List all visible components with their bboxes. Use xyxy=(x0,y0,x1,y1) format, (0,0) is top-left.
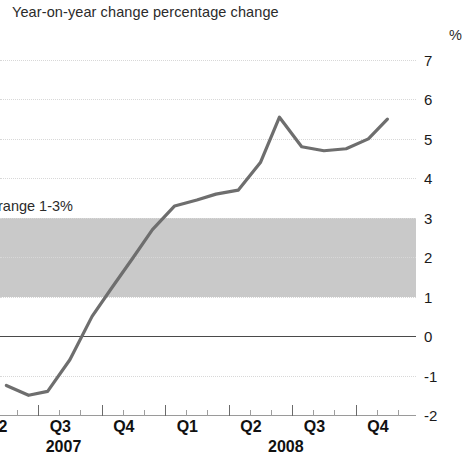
x-axis-minor-tick xyxy=(313,410,314,416)
plot-area: range 1-3% xyxy=(0,60,416,415)
x-axis-quarter-label: Q2 xyxy=(240,418,261,436)
x-axis-quarter-label: Q3 xyxy=(50,418,71,436)
x-axis-year-label: 2008 xyxy=(268,438,304,456)
x-axis-quarter-label: Q4 xyxy=(113,418,134,436)
x-axis-minor-tick xyxy=(17,410,18,416)
x-axis-quarter-label: Q2 xyxy=(0,418,8,436)
y-axis-tick-label: 7 xyxy=(424,52,464,69)
x-axis-major-tick xyxy=(229,405,230,416)
x-axis-quarter-label: Q4 xyxy=(367,418,388,436)
x-axis-minor-tick xyxy=(250,410,251,416)
chart-figure: Year-on-year change percentage change % … xyxy=(0,0,470,459)
y-axis-tick-label: -2 xyxy=(424,407,464,424)
x-axis-minor-tick xyxy=(207,410,208,416)
y-axis-tick-label: 0 xyxy=(424,328,464,345)
x-axis-minor-tick xyxy=(80,410,81,416)
chart-title: Year-on-year change percentage change xyxy=(12,4,279,20)
y-axis-tick-label: 3 xyxy=(424,209,464,226)
x-axis-minor-tick xyxy=(59,410,60,416)
y-axis-tick-label: 1 xyxy=(424,288,464,305)
x-axis-minor-tick xyxy=(123,410,124,416)
y-axis-tick-label: 5 xyxy=(424,130,464,147)
y-axis-tick-label: 4 xyxy=(424,170,464,187)
x-axis-quarter-label: Q3 xyxy=(304,418,325,436)
x-axis-major-tick xyxy=(38,405,39,416)
y-axis-tick-label: 2 xyxy=(424,249,464,266)
y-axis-unit-label: % xyxy=(449,27,462,43)
x-axis-major-tick xyxy=(165,405,166,416)
series-line xyxy=(6,117,387,395)
x-axis-major-tick xyxy=(102,405,103,416)
y-axis-tick-label: -1 xyxy=(424,367,464,384)
x-axis-quarter-label: Q1 xyxy=(177,418,198,436)
x-axis-year-label: 2007 xyxy=(46,438,82,456)
x-axis-minor-tick xyxy=(398,410,399,416)
x-axis-major-tick xyxy=(292,405,293,416)
x-axis-minor-tick xyxy=(271,410,272,416)
x-axis-minor-tick xyxy=(377,410,378,416)
x-axis-major-tick xyxy=(356,405,357,416)
x-axis-minor-tick xyxy=(186,410,187,416)
y-axis-tick-label: 6 xyxy=(424,91,464,108)
x-axis-minor-tick xyxy=(144,410,145,416)
x-axis-minor-tick xyxy=(334,410,335,416)
data-series-line xyxy=(0,60,416,415)
